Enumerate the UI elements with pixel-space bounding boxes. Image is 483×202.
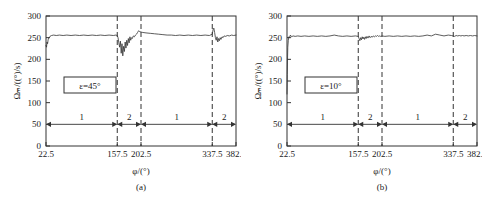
x-tick-label: 202.5 xyxy=(131,149,152,159)
y-tick-label: 250 xyxy=(269,33,283,43)
segment-arrow-head-right xyxy=(377,122,382,127)
segment-arrow-head-right xyxy=(353,122,358,127)
panel-b: 05010015020025030022.5157.5202.5337.5382… xyxy=(241,0,482,202)
segment-arrow-head-left xyxy=(212,122,217,127)
segment-arrow-head-left xyxy=(117,122,122,127)
y-axis-title: Ωₘ/((°)/s) xyxy=(12,63,22,100)
y-tick-label: 200 xyxy=(28,54,42,64)
panel-caption: (b) xyxy=(377,182,388,192)
segment-arrow-head-left xyxy=(453,122,458,127)
x-tick-label: 337.5 xyxy=(202,149,223,159)
segment-arrow-head-right xyxy=(231,122,236,127)
segment-arrow-head-right xyxy=(112,122,117,127)
annotation-label: ε=10° xyxy=(320,81,342,91)
y-tick-label: 300 xyxy=(28,11,42,21)
panel-caption: (a) xyxy=(136,182,146,192)
segment-label: 1 xyxy=(415,112,420,122)
segment-arrow-head-left xyxy=(287,122,292,127)
plot-a-canvas: 05010015020025030022.5157.5202.5337.5382… xyxy=(0,0,241,202)
x-tick-label: 382.5 xyxy=(226,149,241,159)
y-tick-label: 200 xyxy=(269,54,283,64)
segment-label: 2 xyxy=(222,112,227,122)
segment-arrow-head-left xyxy=(358,122,363,127)
segment-label: 1 xyxy=(174,112,179,122)
segment-arrow-head-left xyxy=(141,122,146,127)
y-tick-label: 300 xyxy=(269,11,283,21)
x-axis-title: φ/(°) xyxy=(373,166,390,176)
figure-container: 05010015020025030022.5157.5202.5337.5382… xyxy=(0,0,483,202)
x-tick-label: 157.5 xyxy=(107,149,128,159)
x-tick-label: 337.5 xyxy=(443,149,464,159)
segment-label: 2 xyxy=(368,112,373,122)
x-tick-label: 202.5 xyxy=(372,149,393,159)
segment-arrow-head-right xyxy=(448,122,453,127)
segment-label: 1 xyxy=(320,112,325,122)
segment-arrow-head-left xyxy=(382,122,387,127)
segment-arrow-head-left xyxy=(46,122,51,127)
y-tick-label: 50 xyxy=(32,119,42,129)
annotation-label: ε=45° xyxy=(79,81,101,91)
y-tick-label: 100 xyxy=(269,98,283,108)
y-tick-label: 150 xyxy=(28,76,42,86)
y-tick-label: 100 xyxy=(28,98,42,108)
segment-arrow-head-right xyxy=(207,122,212,127)
x-tick-label: 157.5 xyxy=(348,149,369,159)
segment-label: 2 xyxy=(463,112,468,122)
segment-label: 1 xyxy=(79,112,84,122)
x-tick-label: 382.5 xyxy=(467,149,482,159)
x-tick-label: 22.5 xyxy=(279,149,295,159)
y-axis-title: Ωₘ/((°)/s) xyxy=(253,63,263,100)
plot-b-canvas: 05010015020025030022.5157.5202.5337.5382… xyxy=(241,0,482,202)
segment-arrow-head-right xyxy=(136,122,141,127)
y-tick-label: 150 xyxy=(269,76,283,86)
segment-label: 2 xyxy=(127,112,132,122)
x-tick-label: 22.5 xyxy=(38,149,54,159)
panel-a: 05010015020025030022.5157.5202.5337.5382… xyxy=(0,0,241,202)
y-tick-label: 50 xyxy=(273,119,283,129)
y-tick-label: 250 xyxy=(28,33,42,43)
x-axis-title: φ/(°) xyxy=(132,166,149,176)
segment-arrow-head-right xyxy=(472,122,477,127)
